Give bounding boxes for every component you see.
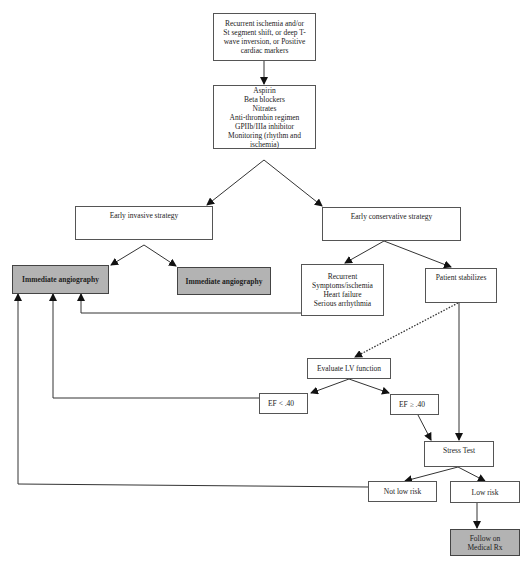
node-early-invasive: Early invasive strategy	[75, 206, 213, 240]
node-treatment: Aspirin Beta blockers Nitrates Anti-thro…	[213, 85, 316, 149]
edge-evaluate-ef-low	[311, 379, 349, 393]
node-recurrent-label: Recurrent Symptoms/ischemia Heart failur…	[312, 272, 373, 308]
node-ef-high: EF ≥ .40	[390, 394, 439, 415]
edge-evaluate-ef-high	[349, 379, 389, 393]
node-evaluate-lv-label: Evaluate LV function	[317, 364, 381, 373]
node-angiography-left-label: Immediate angiography	[22, 275, 99, 284]
node-ef-low: EF < .40	[259, 393, 308, 414]
edge-treatment-invasive	[207, 160, 264, 205]
node-low-risk: Low risk	[450, 481, 520, 503]
edge-invasive-angio-left	[111, 245, 144, 265]
edge-treatment-conservative	[264, 160, 322, 206]
node-angiography-right: Immediate angiography	[177, 267, 271, 295]
node-follow-medical: Follow on Medical Rx	[450, 529, 520, 556]
edge-ef-high-stress	[418, 415, 431, 440]
node-early-invasive-label: Early invasive strategy	[76, 211, 212, 220]
edge-conservative-stabilizes	[384, 241, 451, 267]
edge-invasive-angio-right	[144, 245, 176, 266]
node-early-conservative: Early conservative strategy	[322, 207, 461, 241]
node-evaluate-lv: Evaluate LV function	[307, 358, 391, 379]
node-not-low-risk-label: Not low risk	[384, 487, 422, 496]
node-ef-high-label: EF ≥ .40	[399, 400, 425, 409]
node-presentation-label: Recurrent ischemia and/or St segment shi…	[223, 19, 306, 55]
node-not-low-risk: Not low risk	[368, 481, 437, 502]
node-recurrent: Recurrent Symptoms/ischemia Heart failur…	[301, 264, 384, 316]
node-low-risk-label: Low risk	[472, 488, 499, 497]
node-stress-test: Stress Test	[424, 441, 494, 467]
edge-recurrent-angio-left	[81, 294, 301, 313]
edge-stress-low	[458, 467, 485, 481]
edge-stress-not-low	[405, 467, 458, 481]
node-treatment-label: Aspirin Beta blockers Nitrates Anti-thro…	[228, 86, 301, 149]
node-angiography-right-label: Immediate angiography	[186, 277, 263, 286]
node-follow-medical-label: Follow on Medical Rx	[467, 534, 502, 552]
node-early-conservative-label: Early conservative strategy	[323, 212, 460, 221]
edge-not-low-angio-left	[18, 294, 368, 487]
node-angiography-left: Immediate angiography	[12, 265, 109, 294]
node-presentation: Recurrent ischemia and/or St segment shi…	[213, 13, 316, 61]
edge-conservative-recurrent	[345, 241, 384, 263]
node-patient-stabilizes: Patient stabilizes	[425, 268, 497, 303]
edge-ef-low-angio-left	[53, 294, 259, 398]
node-patient-stabilizes-label: Patient stabilizes	[426, 273, 496, 282]
node-stress-test-label: Stress Test	[425, 446, 493, 455]
node-ef-low-label: EF < .40	[268, 399, 294, 408]
